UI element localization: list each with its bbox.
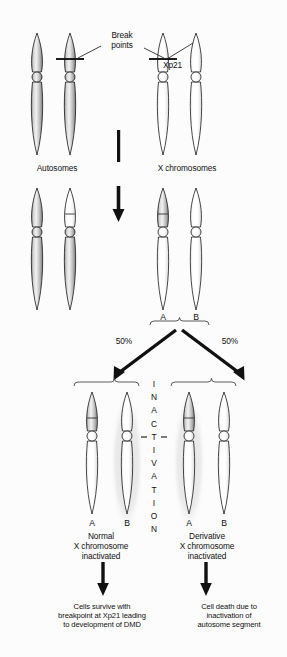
left-percent-label: 50%: [110, 336, 138, 346]
inactivation-letter: T: [146, 484, 162, 497]
chromosome-x-2: [190, 33, 201, 155]
inactivation-letter: A: [146, 404, 162, 417]
gamete-label-A: A: [155, 312, 171, 322]
outcome-brace-left: [74, 378, 139, 386]
inactivation-vertical-label: I N A C T I V A T I O N: [146, 378, 162, 536]
chromosome-left-A-derivative-x: [86, 392, 97, 514]
inactivation-letter: V: [146, 457, 162, 470]
chromosome-derivative-x: [157, 188, 168, 310]
right-outcome-result: Cell death due to inactivation of autoso…: [181, 602, 277, 630]
chromosome-autosome-1: [31, 33, 42, 155]
process-arrow-translocation: [113, 186, 125, 222]
autosomes-label: Autosomes: [19, 163, 95, 173]
right-outcome-caption: Derivative X chromosome inactivated: [155, 531, 259, 561]
gamete-label-B: B: [188, 312, 204, 322]
chromosome-right-A-derivative-x-inactivated: [183, 392, 194, 514]
right-percent-label: 50%: [216, 336, 244, 346]
break-points-label: Break points: [96, 30, 148, 50]
inactivation-letter: I: [146, 378, 162, 391]
figure-canvas: Break points Xp21 Autosomes X chromosome…: [0, 0, 287, 657]
inactivation-letter: A: [146, 470, 162, 483]
inactivation-letter: I: [146, 444, 162, 457]
inactivation-letter: C: [146, 418, 162, 431]
inactivation-letter: N: [146, 391, 162, 404]
outcome-arrow-right: [200, 562, 212, 596]
panel-divider: [117, 130, 120, 162]
chromosome-x-1: [149, 33, 177, 155]
right-chromosome-label-A: A: [181, 518, 197, 528]
chromosome-autosome-1-after: [31, 188, 42, 310]
left-outcome-result: Cells survive with breakpoint at Xp21 le…: [25, 602, 179, 630]
chromosome-autosome-2: [56, 33, 84, 155]
chromosome-left-B-normal-x-inactivated: [121, 392, 132, 514]
chromosome-right-B-normal-x: [218, 392, 229, 514]
inactivation-letter: T: [146, 431, 162, 444]
left-chromosome-label-B: B: [119, 518, 135, 528]
x-chromosomes-label: X chromosomes: [137, 163, 237, 173]
xp21-label: Xp21: [163, 60, 197, 70]
left-outcome-caption: Normal X chromosome inactivated: [49, 531, 153, 561]
right-chromosome-label-B: B: [216, 518, 232, 528]
chromosome-derivative-autosome: [64, 188, 75, 310]
inactivation-letter: O: [146, 510, 162, 523]
outcome-brace-right: [171, 378, 236, 386]
chromosome-normal-x-after: [190, 188, 201, 310]
inactivation-letter: I: [146, 497, 162, 510]
left-chromosome-label-A: A: [84, 518, 100, 528]
outcome-arrow-left: [97, 562, 109, 596]
